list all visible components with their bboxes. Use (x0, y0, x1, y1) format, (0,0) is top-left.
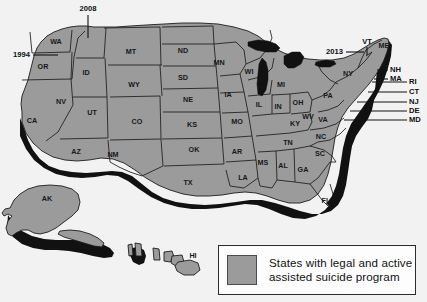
legend-text-line1: States with legal and active (269, 256, 412, 270)
state-label-me: ME (379, 41, 390, 50)
state-label-ga: GA (298, 165, 309, 174)
state-label-ne: NE (183, 95, 193, 104)
state-label-ks: KS (187, 120, 197, 129)
state-label-ky: KY (290, 119, 300, 128)
callout-label-nh: NH (390, 65, 401, 74)
state-label-az: AZ (71, 147, 81, 156)
callout-label-ma: MA (390, 74, 402, 83)
state-label-wa: WA (50, 37, 62, 46)
state-label-mn: MN (213, 58, 224, 67)
legend-text-line2: assisted suicide program (269, 270, 412, 284)
state-label-ak: AK (42, 194, 53, 203)
hawaii-island-2 (135, 243, 142, 256)
state-label-mi: MI (277, 80, 285, 89)
state-label-la: LA (238, 173, 248, 182)
callout-label-2008: 2008 (80, 4, 97, 13)
callout-label-md: MD (409, 115, 421, 124)
state-label-pa: PA (323, 91, 332, 100)
state-label-nd: ND (178, 46, 188, 55)
state-label-hi: HI (189, 251, 196, 260)
legend-text: States with legal and active assisted su… (269, 256, 412, 284)
state-label-ok: OK (189, 145, 201, 154)
state-label-nv: NV (56, 97, 66, 106)
state-label-ut: UT (87, 108, 97, 117)
state-label-fl: FL (322, 196, 331, 205)
state-label-wy: WY (128, 80, 140, 89)
legend-swatch (227, 255, 257, 285)
state-label-ny: NY (343, 69, 353, 78)
state-label-in: IN (274, 102, 281, 111)
callout-label-nj: NJ (409, 97, 419, 106)
state-label-va: VA (318, 115, 327, 124)
legend: States with legal and active assisted su… (218, 245, 416, 295)
state-label-wv: WV (302, 112, 314, 121)
hawaii-island-big (175, 260, 200, 275)
state-label-ar: AR (232, 147, 243, 156)
state-label-oh: OH (293, 98, 304, 107)
state-label-al: AL (278, 161, 288, 170)
state-label-il: IL (256, 100, 263, 109)
alaska-shape (2, 185, 80, 236)
state-label-nm: NM (107, 150, 118, 159)
state-label-nc: NC (316, 132, 326, 141)
state-label-co: CO (132, 117, 143, 126)
state-label-sd: SD (178, 73, 188, 82)
state-label-wi: WI (245, 67, 254, 76)
state-label-mt: MT (126, 47, 137, 56)
callout-label-1994: 1994 (13, 50, 31, 59)
callout-label-ct: CT (409, 87, 419, 96)
state-label-id: ID (82, 68, 89, 77)
callout-label-de: DE (409, 106, 420, 115)
callout-label-ri: RI (409, 77, 417, 86)
state-label-tn: TN (283, 138, 293, 147)
state-label-ca: CA (27, 116, 37, 125)
hawaii-island-1 (128, 244, 133, 256)
state-label-ia: IA (224, 90, 231, 99)
state-label-ms: MS (258, 158, 269, 167)
state-label-sc: SC (315, 149, 325, 158)
hawaii-island-3 (153, 248, 160, 260)
callout-label-2013: 2013 (326, 47, 343, 56)
state-label-mo: MO (231, 117, 243, 126)
state-label-tx: TX (183, 178, 192, 187)
callout-label-vt: VT (362, 37, 372, 46)
state-label-or: OR (38, 62, 50, 71)
map-figure: WAORCANVIDUTAZMTWYCONMNDSDNEKSOKTXMNIAMO… (0, 0, 427, 302)
